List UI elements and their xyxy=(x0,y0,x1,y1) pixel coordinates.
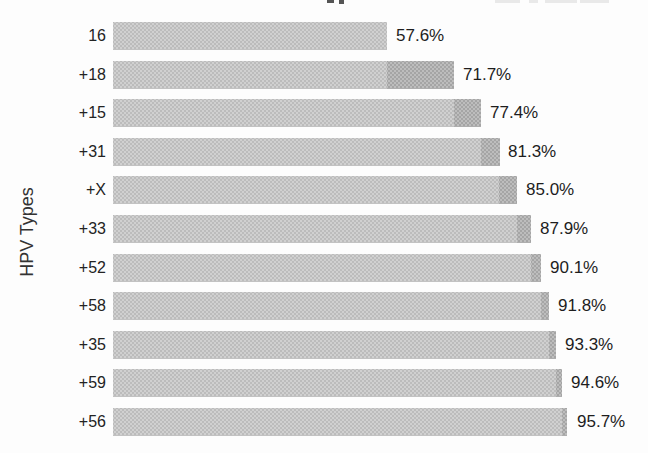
bar-18 xyxy=(113,61,454,88)
bar-segment-base xyxy=(113,331,549,359)
bar-segment-increment xyxy=(481,138,500,166)
category-label-58: +58 xyxy=(0,292,106,319)
category-label-X: +X xyxy=(0,176,106,203)
value-label-X: 85.0% xyxy=(526,176,574,203)
bar-segment-increment xyxy=(499,176,517,204)
bar-16 xyxy=(113,22,387,49)
bar-segment-increment xyxy=(387,61,454,89)
bar-segment-base xyxy=(113,292,541,320)
bar-59 xyxy=(113,369,562,396)
bar-segment-increment xyxy=(562,408,567,436)
bar-15 xyxy=(113,99,481,126)
bar-33 xyxy=(113,215,531,242)
value-label-52: 90.1% xyxy=(550,254,598,281)
bar-segment-base xyxy=(113,61,387,89)
bar-X xyxy=(113,176,517,203)
bar-segment-base xyxy=(113,138,481,166)
bar-52 xyxy=(113,254,541,281)
category-label-16: 16 xyxy=(0,22,106,49)
value-label-16: 57.6% xyxy=(396,22,444,49)
bar-58 xyxy=(113,292,549,319)
bar-segment-base xyxy=(113,254,531,282)
value-label-33: 87.9% xyxy=(540,215,588,242)
bar-segment-increment xyxy=(454,99,481,127)
value-label-18: 71.7% xyxy=(463,61,511,88)
bar-segment-base xyxy=(113,215,517,243)
bar-35 xyxy=(113,331,556,358)
bar-segment-increment xyxy=(549,331,556,359)
bar-segment-base xyxy=(113,369,556,397)
bar-segment-base xyxy=(113,22,387,50)
value-label-59: 94.6% xyxy=(571,369,619,396)
category-label-35: +35 xyxy=(0,331,106,358)
bar-segment-base xyxy=(113,176,499,204)
value-label-15: 77.4% xyxy=(490,99,538,126)
bar-segment-base xyxy=(113,408,562,436)
hpv-cumulative-bar-chart: HPV Types 1657.6%+1871.7%+1577.4%+3181.3… xyxy=(0,0,648,453)
bar-segment-base xyxy=(113,99,454,127)
bar-segment-increment xyxy=(531,254,541,282)
bar-segment-increment xyxy=(517,215,531,243)
category-label-33: +33 xyxy=(0,215,106,242)
category-label-31: +31 xyxy=(0,138,106,165)
bar-56 xyxy=(113,408,567,435)
value-label-35: 93.3% xyxy=(565,331,613,358)
category-label-56: +56 xyxy=(0,408,106,435)
bar-31 xyxy=(113,138,500,165)
bar-segment-increment xyxy=(556,369,562,397)
category-label-52: +52 xyxy=(0,254,106,281)
value-label-56: 95.7% xyxy=(577,408,625,435)
value-label-58: 91.8% xyxy=(558,292,606,319)
category-label-18: +18 xyxy=(0,61,106,88)
value-label-31: 81.3% xyxy=(508,138,556,165)
bar-segment-increment xyxy=(541,292,549,320)
category-label-59: +59 xyxy=(0,369,106,396)
category-label-15: +15 xyxy=(0,99,106,126)
plot-area: 1657.6%+1871.7%+1577.4%+3181.3%+X85.0%+3… xyxy=(0,0,648,453)
